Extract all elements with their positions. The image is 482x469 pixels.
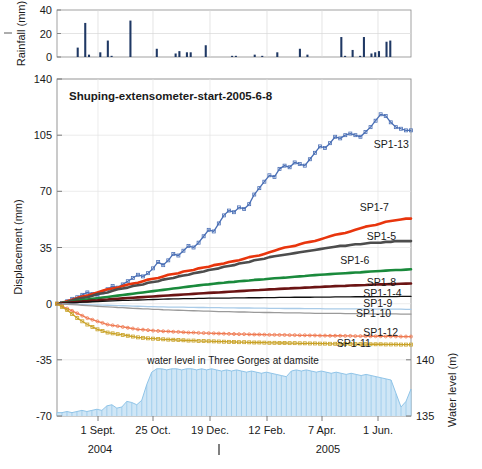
rainfall-bar [99,52,101,57]
displacement-axis-label: Displacement (mm) [12,199,24,294]
disp-tick-105: 105 [34,129,52,141]
rainfall-bar [370,53,372,57]
rainfall-bar [306,55,308,57]
rainfall-bar [352,50,354,57]
series-label-sp1-13: SP1-13 [374,138,409,150]
rainfall-bar [129,21,131,57]
water-tick-140: 140 [416,354,434,366]
rainfall-bar [363,37,365,57]
disp-tick-neg35: -35 [36,354,52,366]
series-label-sp1-10: SP1-10 [356,307,391,319]
rainfall-bar [178,51,180,57]
figure-container: 40 20 0 Rainfall (mm) water level in Thr… [0,0,482,469]
displacement-panel: water level in Three Gorges at damsite S… [12,73,458,427]
rainfall-bar [231,56,233,57]
year-label-2005: 2005 [316,443,340,455]
x-tick-1-jun: 1 Jun. [363,424,393,436]
water-tick-135: 135 [416,410,434,422]
waterlevel-axis-label: Water level (m) [446,353,458,427]
rainfall-bar [261,56,263,57]
water-level-annotation: water level in Three Gorges at damsite [146,355,319,366]
disp-tick-0: 0 [46,298,52,310]
series-label-sp1-7: SP1-7 [360,201,389,213]
rainfall-bar [389,41,391,57]
rainfall-bar [111,56,113,57]
rainfall-bar [374,52,376,57]
rainfall-tick-40: 40 [40,4,52,16]
rainfall-bar [84,23,86,57]
series-label-sp1-11: SP1-11 [337,337,371,349]
x-tick-1-sept: 1 Sept. [81,424,116,436]
year-label-2004: 2004 [88,443,112,455]
rainfall-panel: 40 20 0 Rainfall (mm) [4,1,411,66]
rainfall-axis-label: Rainfall (mm) [15,1,27,66]
series-label-sp1-12: SP1-12 [363,326,398,338]
rainfall-bar [344,56,346,57]
rainfall-bar [186,52,188,57]
disp-tick-neg70: -70 [36,410,52,422]
disp-tick-70: 70 [40,185,52,197]
rainfall-bar [190,52,192,57]
rainfall-bar [156,49,158,57]
x-tick-12-feb: 12 Feb. [248,424,285,436]
series-label-sp1-5: SP1-5 [367,230,396,242]
x-tick-25-oct: 25 Oct. [135,424,170,436]
series-label-sp1-8: SP1-8 [367,276,396,288]
rainfall-bar [340,37,342,57]
rainfall-bar [254,55,256,57]
rainfall-bar [88,55,90,57]
rainfall-bar [107,41,109,57]
rainfall-bar [175,53,177,57]
rainfall-bar [235,56,237,57]
rainfall-bar [205,45,207,57]
rainfall-bar [378,51,380,57]
shuping-extensometer-figure: 40 20 0 Rainfall (mm) water level in Thr… [0,0,482,469]
rainfall-bar [77,48,79,57]
rainfall-tick-0: 0 [46,51,52,63]
x-tick-19-dec: 19 Dec. [191,424,229,436]
series-label-sp1-6: SP1-6 [340,254,369,266]
disp-tick-35: 35 [40,242,52,254]
rainfall-bar [359,56,361,57]
rainfall-tick-20: 20 [40,28,52,40]
x-tick-7-apr: 7 Apr. [308,424,336,436]
rainfall-bar [385,42,387,57]
chart-title: Shuping-extensometer-start-2005-6-8 [69,90,273,102]
disp-tick-140: 140 [34,73,52,85]
rainfall-bar [299,49,301,57]
rainfall-bar [276,52,278,57]
